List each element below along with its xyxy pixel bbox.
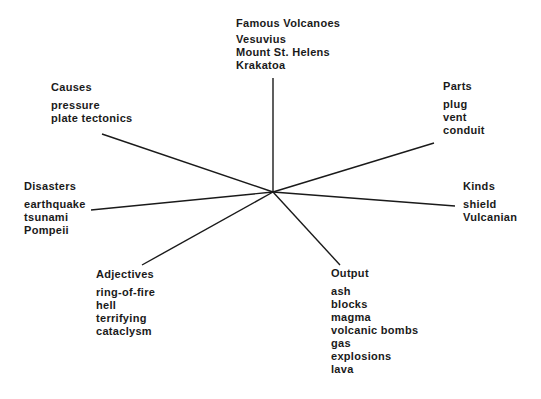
branch-item: shield bbox=[463, 198, 517, 211]
branch-item: hell bbox=[96, 299, 155, 312]
branch-title: Output bbox=[331, 267, 418, 280]
branch-item: lava bbox=[331, 363, 418, 376]
branch-item: blocks bbox=[331, 298, 418, 311]
branch-item: terrifying bbox=[96, 312, 155, 325]
branch-item: volcanic bombs bbox=[331, 324, 418, 337]
branch-item: explosions bbox=[331, 350, 418, 363]
connector-line-output bbox=[273, 192, 340, 265]
branch-item: vent bbox=[443, 111, 485, 124]
branch-item: plate tectonics bbox=[51, 112, 133, 125]
branch-title: Famous Volcanoes bbox=[236, 17, 340, 30]
branch-item: plug bbox=[443, 98, 485, 111]
branch-item: cataclysm bbox=[96, 325, 155, 338]
branch-item: pressure bbox=[51, 99, 133, 112]
connector-line-parts bbox=[273, 143, 434, 192]
branch-famous-volcanoes: Famous Volcanoes Vesuvius Mount St. Hele… bbox=[236, 17, 340, 72]
branch-item: Vesuvius bbox=[236, 33, 340, 46]
branch-disasters: Disasters earthquake tsunami Pompeii bbox=[24, 180, 86, 237]
branch-item: Pompeii bbox=[24, 224, 86, 237]
branch-parts: Parts plug vent conduit bbox=[443, 80, 485, 137]
branch-output: Output ash blocks magma volcanic bombs g… bbox=[331, 267, 418, 376]
branch-item: tsunami bbox=[24, 211, 86, 224]
branch-item: gas bbox=[331, 337, 418, 350]
branch-item: conduit bbox=[443, 124, 485, 137]
connector-line-kinds bbox=[273, 192, 455, 206]
branch-title: Causes bbox=[51, 81, 133, 94]
branch-item: Vulcanian bbox=[463, 211, 517, 224]
branch-causes: Causes pressure plate tectonics bbox=[51, 81, 133, 125]
branch-adjectives: Adjectives ring-of-fire hell terrifying … bbox=[96, 268, 155, 338]
branch-item: ash bbox=[331, 285, 418, 298]
branch-title: Adjectives bbox=[96, 268, 155, 281]
branch-item: magma bbox=[331, 311, 418, 324]
connector-line-causes bbox=[102, 134, 273, 192]
branch-title: Kinds bbox=[463, 180, 517, 193]
branch-item: Krakatoa bbox=[236, 59, 340, 72]
branch-item: earthquake bbox=[24, 198, 86, 211]
branch-kinds: Kinds shield Vulcanian bbox=[463, 180, 517, 224]
branch-title: Disasters bbox=[24, 180, 86, 193]
branch-title: Parts bbox=[443, 80, 485, 93]
branch-item: ring-of-fire bbox=[96, 286, 155, 299]
branch-item: Mount St. Helens bbox=[236, 46, 340, 59]
